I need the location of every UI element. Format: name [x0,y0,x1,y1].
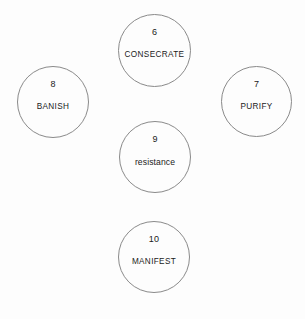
node-label: MANIFEST [132,258,176,266]
node-number: 6 [152,28,157,37]
circle-node-purify[interactable]: 7 PURIFY [221,66,292,137]
node-number: 10 [149,235,159,244]
node-label: PURIFY [240,103,272,111]
node-label: CONSECRATE [125,51,185,59]
circle-node-banish[interactable]: 8 BANISH [17,66,89,138]
diagram-canvas: 6 CONSECRATE 8 BANISH 7 PURIFY 9 resista… [0,0,305,319]
node-label: BANISH [37,103,70,111]
node-number: 8 [50,80,55,89]
circle-node-manifest[interactable]: 10 MANIFEST [118,221,190,293]
circle-node-consecrate[interactable]: 6 CONSECRATE [118,14,191,87]
node-number: 7 [254,80,259,89]
node-number: 9 [152,135,157,144]
node-label: resistance [135,158,175,167]
circle-node-resistance[interactable]: 9 resistance [119,121,191,193]
